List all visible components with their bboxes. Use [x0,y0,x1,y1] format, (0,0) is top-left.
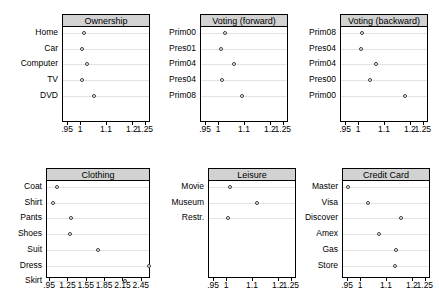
category-label: Gas [322,245,338,254]
gridline [341,49,427,50]
panel-clothing: CoatShirtPantsShoesSuitDressSkirtClothin… [0,150,146,306]
data-point [360,31,364,35]
panel-title: Ownership [63,15,149,27]
plot-area [341,27,427,123]
gridline [63,64,149,65]
panel-leisure: MovieMuseumRestr.Leisure.9511.11.21.25 [146,150,292,306]
axis-tick-label: 1.85 [96,281,113,290]
data-point [51,201,55,205]
gridline [343,250,429,251]
data-point [68,232,72,236]
plot-frame: Clothing [46,168,150,278]
category-label: Amex [316,229,338,238]
axis-tick-label: 1.1 [238,125,250,134]
category-label: Prim08 [169,91,196,100]
gridline [343,234,429,235]
category-label: Prim04 [309,59,336,68]
category-label: Store [318,260,338,269]
category-label: Dress [20,260,42,269]
category-label: Suit [27,245,42,254]
axis-tick-label: .95 [207,281,219,290]
data-point [80,47,84,51]
category-label: Pres04 [309,43,336,52]
data-point [232,62,236,66]
category-label: Prim00 [309,91,336,100]
panel-voting-forward: Prim00Pres01Prim04Pres04Prim08Voting (fo… [146,0,292,150]
category-label: Restr. [182,213,204,222]
gridline [209,203,295,204]
data-point [69,216,73,220]
panel-title: Voting (backward) [341,15,427,27]
data-point [399,216,403,220]
gridline [209,187,295,188]
axis-tick-label: 2.15 [114,281,131,290]
data-point [223,31,227,35]
category-label: Skirt [25,276,42,285]
data-point [403,94,407,98]
gridline [341,80,427,81]
category-label: Shirt [25,197,42,206]
category-label: Computer [21,59,58,68]
gridline [47,266,149,267]
plot-frame: Leisure [208,168,296,278]
category-label: Pants [20,213,42,222]
category-label: Visa [322,197,338,206]
axis-tick-label: 1.25 [417,281,434,290]
gridline [201,80,287,81]
panel-credit-card: MasterVisaDiscoverAmexGasStoreCredit Car… [292,150,439,306]
category-label: Prim08 [309,28,336,37]
data-point [255,201,259,205]
plot-area [343,181,429,279]
plot-frame: Voting (forward) [200,14,288,122]
category-label: TV [47,75,58,84]
axis-tick-label: 1 [216,125,221,134]
gridline [201,64,287,65]
category-label: Pres01 [169,43,196,52]
data-point [82,31,86,35]
data-point [226,216,230,220]
gridline [201,96,287,97]
data-point [359,47,363,51]
axis-tick-label: .95 [341,281,353,290]
data-point [240,94,244,98]
panel-voting-backward: Prim08Pres04Prim04Pres00Prim00Voting (ba… [292,0,439,150]
gridline [47,203,149,204]
gridline [47,187,149,188]
category-label: Car [44,43,58,52]
data-point [377,232,381,236]
gridline [343,218,429,219]
category-label: Museum [171,197,204,206]
data-point [80,78,84,82]
plot-frame: Credit Card [342,168,430,278]
gridline [63,49,149,50]
gridline [209,218,295,219]
category-label: Coat [24,182,42,191]
category-label: Discover [305,213,338,222]
gridline [201,49,287,50]
axis-tick-label: .95 [61,125,73,134]
axis-tick-label: 1.1 [246,281,258,290]
plot-frame: Voting (backward) [340,14,428,122]
gridline [63,80,149,81]
data-point [366,201,370,205]
gridline [47,234,149,235]
data-point [346,185,350,189]
axis-tick-label: 1 [356,125,361,134]
gridline [47,218,149,219]
axis-tick-label: .95 [339,125,351,134]
panel-ownership: HomeCarComputerTVDVDOwnership.9511.11.21… [0,0,146,150]
category-label: Pres04 [169,75,196,84]
axis-tick-label: 1.1 [378,125,390,134]
data-point [219,47,223,51]
gridline [343,187,429,188]
category-label: Prim04 [169,59,196,68]
gridline [341,96,427,97]
data-point [85,62,89,66]
category-label: Home [35,28,58,37]
panel-title: Leisure [209,169,295,181]
category-label: Movie [181,182,204,191]
axis-tick-label: 1 [78,125,83,134]
gridline [341,64,427,65]
axis-tick-label: 1.25 [275,125,292,134]
axis-tick-label: 1.25 [415,125,432,134]
